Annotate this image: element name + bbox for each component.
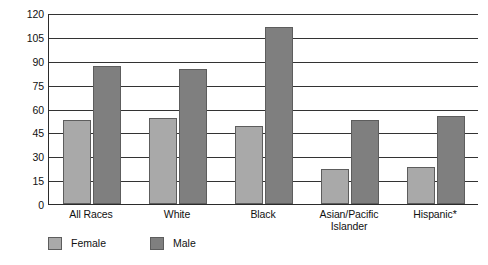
bar [351, 120, 379, 204]
y-axis-tick-label: 120 [0, 9, 44, 19]
legend-swatch-male [150, 237, 164, 250]
y-axis-tick-label: 45 [0, 128, 44, 138]
x-axis-label: Asian/PacificIslander [306, 208, 392, 232]
bar [93, 66, 121, 204]
bar [235, 126, 263, 204]
chart-legend: Female Male [48, 237, 196, 250]
legend-item-female: Female [48, 237, 106, 250]
y-axis-tick-label: 75 [0, 81, 44, 91]
x-axis-label-line: Black [220, 208, 306, 220]
y-axis-tick-label: 105 [0, 33, 44, 43]
bar [321, 169, 349, 204]
bar [63, 120, 91, 204]
x-axis-label: Black [220, 208, 306, 220]
bar [265, 27, 293, 204]
gridline-120 [49, 14, 478, 15]
bar [407, 167, 435, 204]
gridline-90 [49, 62, 478, 63]
x-axis-label-line: Hispanic* [392, 208, 478, 220]
legend-item-male: Male [150, 237, 196, 250]
bar [149, 118, 177, 204]
y-axis-tick-label: 60 [0, 105, 44, 115]
legend-swatch-female [48, 237, 62, 250]
bar-chart: 1201059075604530150 All RacesWhiteBlackA… [0, 0, 488, 265]
x-axis-label-line: Asian/Pacific [306, 208, 392, 220]
bar [437, 116, 465, 204]
y-axis-tick-label: 0 [0, 200, 44, 210]
y-axis: 1201059075604530150 [0, 0, 44, 265]
y-axis-tick-label: 15 [0, 176, 44, 186]
gridline-105 [49, 38, 478, 39]
x-axis-label: All Races [48, 208, 134, 220]
plot-area [48, 14, 478, 205]
bar [179, 69, 207, 204]
x-axis-label-line: White [134, 208, 220, 220]
x-axis-label: White [134, 208, 220, 220]
legend-label-male: Male [173, 238, 196, 249]
x-axis-label-line: All Races [48, 208, 134, 220]
x-axis-label-line: Islander [306, 220, 392, 232]
y-axis-tick-label: 30 [0, 152, 44, 162]
y-axis-tick-label: 90 [0, 57, 44, 67]
legend-label-female: Female [71, 238, 106, 249]
x-axis-label: Hispanic* [392, 208, 478, 220]
